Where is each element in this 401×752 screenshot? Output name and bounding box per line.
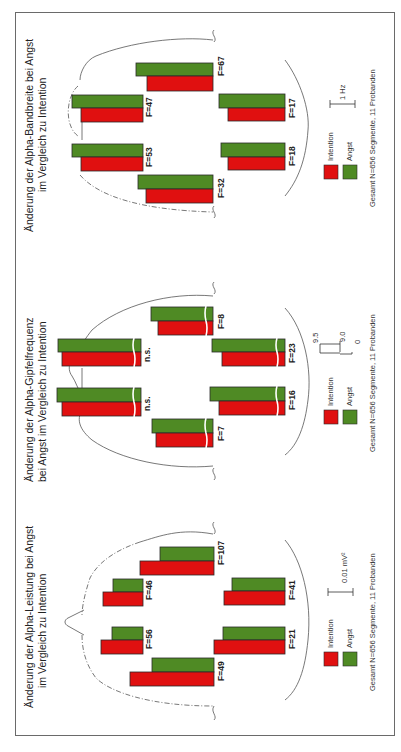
f-value: n.s. xyxy=(142,396,152,411)
bar-angst xyxy=(152,658,214,672)
nose-outline xyxy=(65,610,84,635)
panel-title-line2: bei Angst im Vergleich zu Intention xyxy=(36,321,48,482)
legend-label-angst: Angst xyxy=(345,141,354,161)
legend-swatch-intention xyxy=(324,652,338,666)
ear-mark xyxy=(213,706,215,720)
f-value: F=49 xyxy=(216,661,226,681)
bar-intention xyxy=(219,401,285,415)
bar-angst xyxy=(223,627,285,640)
scale-tick: 9.0 xyxy=(338,332,347,342)
footnote: Gesamt N=656 Segmente, 11 Probanden xyxy=(368,314,377,452)
f-value: F=8 xyxy=(216,314,226,329)
scale-label: 0.01 mV² xyxy=(340,552,349,583)
bar-intention xyxy=(228,108,285,121)
f-value: F=32 xyxy=(216,178,226,198)
f-value: F=18 xyxy=(287,146,297,166)
bar-intention xyxy=(140,561,214,575)
bar-angst xyxy=(160,547,214,561)
bar-angst xyxy=(136,63,213,76)
panel-gipfelfrequenz: Änderung der Alpha-Gipfelfrequenz bei An… xyxy=(23,282,377,482)
bar-intention xyxy=(214,640,285,654)
footnote: Gesamt N=656 Segmente, 11 Probanden xyxy=(368,69,377,207)
legend-label-angst: Angst xyxy=(345,628,354,648)
bar-angst xyxy=(152,419,213,433)
scale-axis xyxy=(320,341,352,354)
bar-angst xyxy=(113,579,143,592)
bar-angst xyxy=(58,339,141,352)
bar-angst xyxy=(112,627,143,640)
scale-label: 1 Hz xyxy=(338,84,347,100)
legend-swatch-angst xyxy=(343,652,357,666)
bar-intention xyxy=(146,189,213,203)
f-value: F=67 xyxy=(216,56,226,76)
panel-title-line2: im Vergleich zu Intention xyxy=(36,573,48,688)
bar-angst xyxy=(57,388,141,402)
panel-title-line1: Änderung der Alpha-Leistung bei Angst xyxy=(23,526,35,708)
f-value: F=53 xyxy=(144,147,154,167)
figure: Änderung der Alpha-Bandbreite bei Angst … xyxy=(0,0,401,752)
footnote: Gesamt N=656 Segmente, 11 Probanden xyxy=(368,553,377,691)
f-value: F=17 xyxy=(287,98,297,118)
legend-swatch-angst xyxy=(343,410,357,424)
panel-title-line2: im Vergleich zu Intention xyxy=(36,77,48,192)
panel-title-line1: Änderung der Alpha-Bandbreite bei Angst xyxy=(23,39,35,232)
ear-mark xyxy=(213,30,215,42)
bar-intention xyxy=(156,433,213,447)
bar-angst xyxy=(138,175,213,189)
bar-intention xyxy=(103,592,143,606)
bar-intention xyxy=(158,321,213,335)
f-value: F=47 xyxy=(144,97,154,117)
legend-swatch-intention xyxy=(324,165,338,179)
bar-intention xyxy=(130,672,214,686)
figure-frame xyxy=(16,13,395,736)
f-value: F=107 xyxy=(216,540,226,565)
bar-angst xyxy=(151,307,213,321)
bar-intention xyxy=(228,157,285,170)
legend-label-intention: Intention xyxy=(326,377,335,406)
bar-angst xyxy=(72,144,143,157)
legend-label-intention: Intention xyxy=(326,619,335,648)
bar-intention xyxy=(81,157,143,171)
panel-leistung: Änderung der Alpha-Leistung bei Angst im… xyxy=(23,522,377,720)
bar-angst xyxy=(210,387,285,401)
bar-intention xyxy=(62,352,141,366)
bar-angst xyxy=(232,578,285,591)
bar-intention xyxy=(224,591,285,605)
legend-swatch-intention xyxy=(324,410,338,424)
f-value: F=23 xyxy=(287,343,297,363)
ear-mark xyxy=(213,522,215,534)
bar-intention xyxy=(222,352,285,366)
bar-angst xyxy=(219,94,285,108)
ear-mark xyxy=(213,468,215,480)
f-value: F=21 xyxy=(287,629,297,649)
f-value: F=16 xyxy=(287,390,297,410)
f-value: F=56 xyxy=(144,629,154,649)
f-value: n.s. xyxy=(142,347,152,362)
scale-bar xyxy=(328,588,353,596)
f-value: F=46 xyxy=(144,580,154,600)
bar-intention xyxy=(62,402,141,416)
ear-mark xyxy=(213,206,215,218)
f-value: F=7 xyxy=(216,426,226,441)
panel-bandbreite: Änderung der Alpha-Bandbreite bei Angst … xyxy=(23,30,377,232)
scale-tick: 0 xyxy=(353,340,362,344)
bar-angst xyxy=(212,339,285,352)
bar-intention xyxy=(147,76,213,91)
bar-angst xyxy=(221,143,285,157)
scale-tick: 9.5 xyxy=(311,333,320,343)
f-value: F=41 xyxy=(287,580,297,600)
legend-swatch-angst xyxy=(343,165,357,179)
legend-label-intention: Intention xyxy=(326,132,335,161)
panel-title-line1: Änderung der Alpha-Gipfelfrequenz xyxy=(23,317,35,482)
legend-label-angst: Angst xyxy=(345,386,354,406)
ear-mark xyxy=(213,282,215,294)
scale-bar xyxy=(330,100,355,108)
bar-intention xyxy=(101,640,143,654)
bar-intention xyxy=(81,108,143,122)
bar-angst xyxy=(72,95,143,108)
